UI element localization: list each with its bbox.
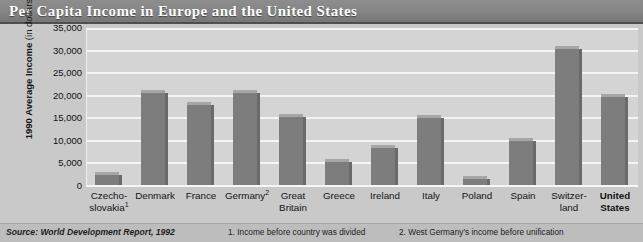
bar-top-face bbox=[95, 172, 119, 175]
bar-united-states bbox=[601, 97, 628, 186]
bar-top-face bbox=[187, 102, 211, 105]
bar-slot bbox=[271, 28, 317, 186]
bar-slot bbox=[455, 28, 501, 186]
y-axis-tick-label: 30,000 bbox=[38, 46, 82, 55]
footnote-2: 2. West Germany's income before unificat… bbox=[399, 227, 564, 237]
chart-title: Per Capita Income in Europe and the Unit… bbox=[9, 3, 357, 20]
bar-slot bbox=[179, 28, 225, 186]
bar-slot bbox=[133, 28, 179, 186]
bar-slot bbox=[363, 28, 409, 186]
bar-top-face bbox=[141, 90, 165, 93]
bar-germany bbox=[233, 93, 260, 186]
bar-spain bbox=[509, 141, 536, 186]
bar-switzerland bbox=[555, 49, 582, 186]
bar-top-face bbox=[371, 145, 395, 148]
bar-slot bbox=[225, 28, 271, 186]
bar-top-face bbox=[601, 94, 625, 97]
bar-top-face bbox=[279, 114, 303, 117]
bar-slot bbox=[87, 28, 133, 186]
source-note: Source: World Development Report, 1992 bbox=[6, 227, 175, 237]
bar-slot bbox=[501, 28, 547, 186]
y-axis-tick-label: 5,000 bbox=[38, 158, 82, 167]
bar-top-face bbox=[325, 159, 349, 162]
y-axis-tick-label: 25,000 bbox=[38, 68, 82, 77]
bar-top-face bbox=[555, 46, 579, 49]
x-axis-tick-labels: Czecho- slovakia1DenmarkFranceGermany2Gr… bbox=[86, 190, 638, 222]
bar-greece bbox=[325, 162, 352, 186]
bar-top-face bbox=[417, 115, 441, 118]
bar-slot bbox=[409, 28, 455, 186]
bar-denmark bbox=[141, 93, 168, 186]
y-axis-title-light: (in dollars) bbox=[23, 0, 34, 43]
y-axis-tick-label: 20,000 bbox=[38, 91, 82, 100]
chart-figure: Per Capita Income in Europe and the Unit… bbox=[0, 0, 643, 242]
y-axis-tick-label: 10,000 bbox=[38, 136, 82, 145]
y-axis-tick-labels: 35,00030,00025,00020,00015,00010,0005,00… bbox=[38, 28, 82, 185]
bar-great-britain bbox=[279, 117, 306, 186]
footnote-1: 1. Income before country was divided bbox=[228, 227, 365, 237]
y-axis-tick-label: 35,000 bbox=[38, 23, 82, 32]
bar-slot bbox=[593, 28, 639, 186]
y-axis-title-bold: 1990 Average Income bbox=[23, 43, 34, 139]
y-axis-tick-label: 15,000 bbox=[38, 113, 82, 122]
chart-footer: Source: World Development Report, 1992 1… bbox=[0, 223, 643, 242]
bar-top-face bbox=[233, 90, 257, 93]
x-axis-tick-label-united-states: United States bbox=[588, 190, 642, 213]
y-axis-tick-label: 0 bbox=[38, 181, 82, 190]
y-axis-title: 1990 Average Income (in dollars) bbox=[23, 0, 34, 148]
bar-series bbox=[87, 28, 638, 186]
bar-france bbox=[187, 105, 214, 186]
chart-title-band: Per Capita Income in Europe and the Unit… bbox=[0, 0, 643, 24]
x-axis-baseline bbox=[86, 185, 638, 187]
plot-area bbox=[86, 28, 638, 186]
bar-slot bbox=[547, 28, 593, 186]
bar-top-face bbox=[463, 176, 487, 179]
bar-slot bbox=[317, 28, 363, 186]
bar-ireland bbox=[371, 148, 398, 186]
bar-top-face bbox=[509, 138, 533, 141]
bar-italy bbox=[417, 118, 444, 186]
